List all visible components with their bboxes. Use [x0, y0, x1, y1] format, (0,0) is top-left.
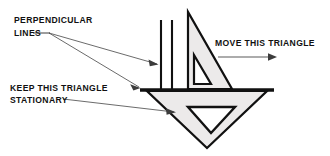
label-stationary-line2: STATIONARY [10, 95, 68, 105]
move-direction-arrow [218, 53, 277, 61]
moving-triangle-group [188, 12, 232, 89]
arrow-right-icon [268, 53, 277, 61]
label-stationary-line1: KEEP THIS TRIANGLE [10, 83, 108, 93]
leader-arrow-icon [149, 60, 159, 67]
stationary-triangle-group [147, 91, 267, 148]
label-perpendicular-line2: LINES [14, 28, 41, 38]
label-perpendicular-line1: PERPENDICULAR [14, 15, 93, 25]
label-move-line1: MOVE THIS TRIANGLE [215, 38, 315, 48]
leader-perpendicular-upper [49, 33, 159, 66]
diagram-canvas: PERPENDICULAR LINES KEEP THIS TRIANGLE S… [0, 0, 330, 156]
leader-perpendicular-lower [49, 33, 141, 90]
diagram-figure: PERPENDICULAR LINES KEEP THIS TRIANGLE S… [0, 0, 330, 156]
